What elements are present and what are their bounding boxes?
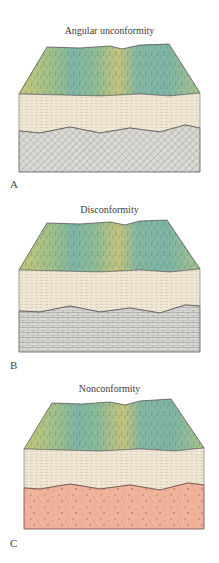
panel-letter: C	[10, 537, 17, 549]
block-diagram-c	[0, 0, 219, 540]
